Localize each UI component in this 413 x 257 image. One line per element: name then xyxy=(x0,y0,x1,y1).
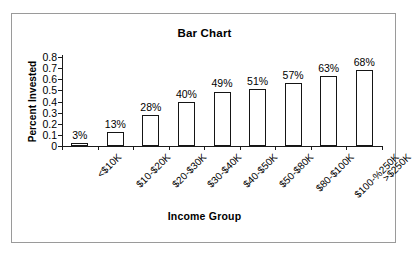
bar[interactable] xyxy=(249,89,266,146)
y-axis-tick-mark xyxy=(58,79,62,80)
y-axis-tick-label: 0.4 xyxy=(42,96,57,107)
bar[interactable] xyxy=(107,132,124,146)
y-axis-tick-label: 0.2 xyxy=(42,119,57,130)
x-axis-tick-mark xyxy=(98,146,99,150)
x-axis-category-label: $40-$50K xyxy=(242,152,280,190)
x-axis-tick-mark xyxy=(204,146,205,150)
y-axis-tick-label: 0.1 xyxy=(42,130,57,141)
y-axis-tick-mark xyxy=(58,90,62,91)
chart-title: Bar Chart xyxy=(12,27,397,39)
bar-value-label: 63% xyxy=(318,63,339,74)
y-axis-title: Percent Invested xyxy=(26,57,40,146)
bar-value-label: 51% xyxy=(247,76,268,87)
x-axis-line xyxy=(62,146,383,147)
x-axis-tick-mark xyxy=(240,146,241,150)
x-axis-tick-mark xyxy=(346,146,347,150)
bar[interactable] xyxy=(71,143,88,146)
bar-value-label: 40% xyxy=(176,89,197,100)
x-axis-tick-mark xyxy=(382,146,383,150)
x-axis-tick-mark xyxy=(311,146,312,150)
bar-value-label: 13% xyxy=(105,119,126,130)
x-axis-tick-mark xyxy=(169,146,170,150)
x-axis-tick-mark xyxy=(275,146,276,150)
bar[interactable] xyxy=(285,83,302,146)
bar-value-label: 28% xyxy=(140,102,161,113)
y-axis-tick-mark xyxy=(58,102,62,103)
x-axis-category-label: $50-$80K xyxy=(277,152,315,190)
x-axis-category-label: $20-$30K xyxy=(171,152,209,190)
y-axis-tick-mark xyxy=(58,113,62,114)
x-axis-category-label: $10-$20K xyxy=(135,152,173,190)
bar-value-label: 3% xyxy=(72,130,87,141)
y-axis-line xyxy=(62,55,63,148)
x-axis-category-label: $30-$40K xyxy=(206,152,244,190)
y-axis-tick-label: 0.6 xyxy=(42,74,57,85)
plot-area: 0.80.70.60.50.40.30.20.10 3%13%28%40%49%… xyxy=(62,57,382,146)
y-axis-tick-mark xyxy=(58,135,62,136)
x-axis-title: Income Group xyxy=(12,210,397,222)
bar-value-label: 57% xyxy=(283,70,304,81)
y-axis-tick-mark xyxy=(58,68,62,69)
bar[interactable] xyxy=(178,102,195,147)
x-axis-tick-mark xyxy=(62,146,63,150)
y-axis-tick-label: 0.5 xyxy=(42,85,57,96)
bar-value-label: 49% xyxy=(211,78,232,89)
x-axis-category-label: $80-$100K xyxy=(314,152,356,194)
bar[interactable] xyxy=(356,70,373,146)
y-axis-tick-label: 0.8 xyxy=(42,52,57,63)
y-axis-tick-label: 0 xyxy=(51,141,57,152)
bar-value-label: 68% xyxy=(354,57,375,68)
y-axis-tick-label: 0.7 xyxy=(42,63,57,74)
x-axis-category-label: <$10K xyxy=(95,152,123,180)
chart-frame: Bar Chart Percent Invested 0.80.70.60.50… xyxy=(11,13,396,243)
y-axis-title-label: Percent Invested xyxy=(28,61,39,143)
y-axis-tick-label: 0.3 xyxy=(42,107,57,118)
bar[interactable] xyxy=(214,92,231,147)
y-axis-tick-mark xyxy=(58,124,62,125)
bar[interactable] xyxy=(142,115,159,146)
y-axis-tick-mark xyxy=(58,57,62,58)
bar[interactable] xyxy=(320,76,337,146)
x-axis-tick-mark xyxy=(133,146,134,150)
